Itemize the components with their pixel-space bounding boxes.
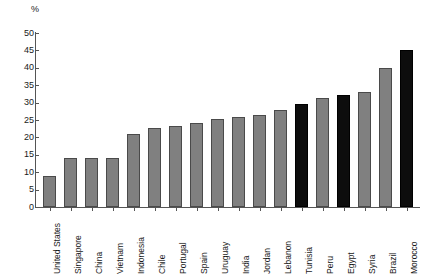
x-axis-tick-mark	[197, 208, 198, 211]
x-axis-label-brazil: Brazil	[389, 253, 398, 274]
x-axis-label-jordan: Jordan	[263, 248, 272, 274]
bar-lebanon	[274, 110, 287, 207]
plot-area	[36, 33, 420, 207]
x-axis-label-morocco: Morocco	[410, 241, 419, 274]
y-axis-tick-label: 0	[6, 203, 34, 212]
x-axis-tick-mark	[260, 208, 261, 211]
x-axis-label-china: China	[95, 252, 104, 274]
x-axis-label-indonesia: Indonesia	[137, 237, 146, 274]
x-axis-label-lebanon: Lebanon	[284, 241, 293, 274]
y-axis-tick-label: 30	[6, 98, 34, 107]
bar-syria	[358, 92, 371, 207]
bar-egypt	[337, 95, 350, 207]
bar-brazil	[379, 68, 392, 207]
y-axis-tick-label: 50	[6, 29, 34, 38]
x-axis-tick-mark	[344, 208, 345, 211]
x-axis-tick-mark	[50, 208, 51, 211]
x-axis-label-egypt: Egypt	[347, 252, 356, 274]
x-axis-label-syria: Syria	[368, 255, 377, 274]
x-axis-line	[35, 207, 420, 208]
y-axis-tick-mark	[36, 207, 39, 208]
y-axis-tick-label: 25	[6, 116, 34, 125]
x-axis-label-spain: Spain	[200, 252, 209, 274]
y-axis-tick-mark	[36, 68, 39, 69]
x-axis-label-peru: Peru	[326, 256, 335, 274]
x-axis-label-united-states: United States	[53, 223, 62, 274]
x-axis-tick-mark	[113, 208, 114, 211]
y-axis-tick-label: 35	[6, 81, 34, 90]
x-axis-tick-mark	[155, 208, 156, 211]
y-axis-tick-label: 45	[6, 46, 34, 55]
x-axis-label-vietnam: Vietnam	[116, 243, 125, 274]
bar-united-states	[43, 176, 56, 207]
bar-singapore	[64, 158, 77, 207]
bar-jordan	[253, 115, 266, 207]
x-axis-tick-mark	[92, 208, 93, 211]
x-axis-tick-mark	[176, 208, 177, 211]
x-axis-category-labels: United StatesSingaporeChinaVietnamIndone…	[36, 209, 420, 277]
x-axis-tick-mark	[218, 208, 219, 211]
x-axis-tick-mark	[386, 208, 387, 211]
x-axis-tick-mark	[71, 208, 72, 211]
x-axis-label-singapore: Singapore	[74, 235, 83, 274]
y-axis-tick-label: 10	[6, 168, 34, 177]
y-axis-tick-mark	[36, 33, 39, 34]
bar-morocco	[400, 50, 413, 207]
y-axis-tick-mark	[36, 103, 39, 104]
y-axis-tick-mark	[36, 85, 39, 86]
y-axis-tick-label: 5	[6, 185, 34, 194]
x-axis-tick-mark	[281, 208, 282, 211]
x-axis-label-tunisia: Tunisia	[305, 247, 314, 274]
bar-portugal	[169, 126, 182, 207]
x-axis-tick-mark	[407, 208, 408, 211]
y-axis-tick-mark	[36, 155, 39, 156]
y-axis-tick-mark	[36, 50, 39, 51]
y-axis-tick-mark	[36, 137, 39, 138]
x-axis-tick-mark	[323, 208, 324, 211]
bar-china	[85, 158, 98, 207]
bar-indonesia	[127, 134, 140, 207]
x-axis-tick-mark	[134, 208, 135, 211]
y-axis-tick-labels: 05101520253035404550	[0, 0, 34, 277]
x-axis-tick-mark	[302, 208, 303, 211]
x-axis-tick-mark	[365, 208, 366, 211]
y-axis-tick-label: 20	[6, 133, 34, 142]
bar-spain	[190, 123, 203, 207]
y-axis-tick-mark	[36, 190, 39, 191]
bar-chile	[148, 128, 161, 207]
bar-uruguay	[211, 119, 224, 207]
bar-vietnam	[106, 158, 119, 207]
x-axis-label-uruguay: Uruguay	[221, 242, 230, 274]
x-axis-tick-mark	[239, 208, 240, 211]
y-axis-tick-mark	[36, 120, 39, 121]
bar-tunisia	[295, 104, 308, 207]
y-axis-tick-mark	[36, 172, 39, 173]
bar-india	[232, 117, 245, 207]
bar-chart: % 05101520253035404550 United StatesSing…	[0, 0, 422, 277]
bar-peru	[316, 98, 329, 207]
y-axis-tick-label: 15	[6, 150, 34, 159]
x-axis-label-portugal: Portugal	[179, 242, 188, 274]
y-axis-tick-label: 40	[6, 63, 34, 72]
x-axis-label-chile: Chile	[158, 255, 167, 274]
x-axis-label-india: India	[242, 256, 251, 274]
